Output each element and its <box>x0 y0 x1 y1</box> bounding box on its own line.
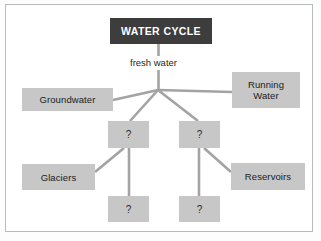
edge-hub-to-q-right <box>158 90 198 121</box>
node-running-water: Running Water <box>232 72 300 108</box>
node-glaciers: Glaciers <box>22 164 95 190</box>
node-groundwater: Groundwater <box>22 88 113 111</box>
node-question-right: ? <box>179 121 220 148</box>
node-question-bottom-left: ? <box>108 196 149 222</box>
node-water-cycle-title: WATER CYCLE <box>110 18 212 44</box>
edge-hub-to-running-water <box>158 90 232 92</box>
water-cycle-concept-map: WATER CYCLE fresh water Groundwater Runn… <box>0 0 321 241</box>
diagram-screenshot: WATER CYCLE fresh water Groundwater Runn… <box>0 0 321 241</box>
node-question-left: ? <box>108 121 149 148</box>
edge-q-right-to-reservoirs <box>204 148 231 172</box>
node-question-bottom-right: ? <box>179 196 220 222</box>
edge-q-left-to-glaciers <box>95 148 124 172</box>
node-reservoirs: Reservoirs <box>231 163 305 190</box>
label-fresh-water: fresh water <box>130 57 177 68</box>
